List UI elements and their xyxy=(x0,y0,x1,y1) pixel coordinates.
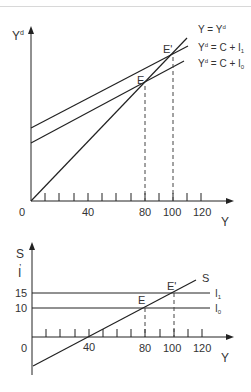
top-origin: 0 xyxy=(19,206,25,218)
top-xtick-40: 40 xyxy=(82,206,94,218)
top-y-label: Yd xyxy=(12,29,24,43)
label-45-line: Y = Yd xyxy=(198,24,226,35)
diagram: Yd E E' Y = Yd Yd = C + I1 Yd = C + I0 0… xyxy=(0,0,251,392)
label-ad-i0: Yd = C + I0 xyxy=(198,58,245,70)
ytick-15: 15 xyxy=(15,287,27,299)
label-i0: I0 xyxy=(215,303,222,315)
line-ad-i1 xyxy=(31,46,188,128)
top-x-ticks xyxy=(45,193,201,201)
point-E-bottom: E xyxy=(138,294,145,306)
bottom-xtick-80: 80 xyxy=(139,342,151,354)
point-E-prime-bottom: E' xyxy=(167,280,176,292)
bottom-x-ticks xyxy=(46,329,202,337)
top-xtick-120: 120 xyxy=(193,206,211,218)
label-saving: S xyxy=(202,272,209,284)
label-ad-i1: Yd = C + I1 xyxy=(198,42,245,54)
bottom-chart: S , I 15 10 E E' S I1 I0 0 40 80 100 120… xyxy=(15,246,230,375)
bottom-xtick-120: 120 xyxy=(193,342,211,354)
top-chart: Yd E E' Y = Yd Yd = C + I1 Yd = C + I0 0… xyxy=(12,24,245,229)
line-45-degree xyxy=(31,38,187,201)
top-xtick-100: 100 xyxy=(163,206,181,218)
point-E-prime: E' xyxy=(163,43,172,55)
top-x-label: Y xyxy=(221,215,229,229)
bottom-xtick-100: 100 xyxy=(163,342,181,354)
line-ad-i0 xyxy=(31,61,184,143)
top-xtick-80: 80 xyxy=(139,206,151,218)
bottom-xtick-40: 40 xyxy=(83,341,95,353)
label-i1: I1 xyxy=(215,288,222,300)
bottom-origin: 0 xyxy=(21,342,27,354)
ytick-10: 10 xyxy=(15,302,27,314)
point-E: E xyxy=(137,74,144,86)
bottom-y-label-i: I xyxy=(18,266,21,280)
bottom-x-label: Y xyxy=(221,351,229,365)
